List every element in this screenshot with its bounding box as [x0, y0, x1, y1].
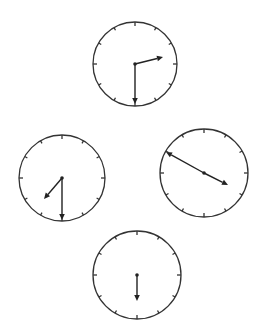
clock-right	[160, 129, 248, 217]
clock-top	[93, 22, 177, 106]
center-hub	[135, 273, 139, 277]
center-hub	[60, 176, 64, 180]
center-hub	[202, 171, 206, 175]
clock-diagram	[0, 0, 262, 329]
center-hub	[133, 62, 137, 66]
clock-bottom	[93, 231, 181, 319]
clock-left	[19, 135, 105, 221]
